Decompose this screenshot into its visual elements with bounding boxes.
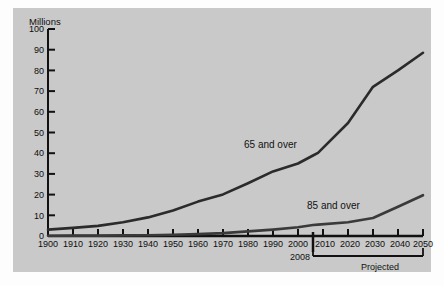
divider-2008-label: 2008 — [290, 252, 310, 262]
y-tick-label-10: 10 — [34, 211, 44, 221]
x-tick-label-1930: 1930 — [113, 239, 133, 249]
x-tick-label-2000: 2000 — [288, 239, 308, 249]
y-tick-label-80: 80 — [34, 66, 44, 76]
series-line-85-and-over — [48, 195, 423, 236]
x-tick-label-1970: 1970 — [213, 239, 233, 249]
projected-bracket — [313, 248, 423, 256]
y-axis-tick-labels: 100 90 80 70 60 50 40 30 20 10 0 — [29, 24, 44, 241]
y-tick-label-50: 50 — [34, 128, 44, 138]
y-tick-label-70: 70 — [34, 86, 44, 96]
y-tick-label-90: 90 — [34, 45, 44, 55]
x-tick-label-1920: 1920 — [88, 239, 108, 249]
series-line-65-and-over — [48, 53, 423, 230]
y-tick-label-100: 100 — [29, 24, 44, 34]
series-label-65-and-over: 65 and over — [244, 139, 297, 150]
x-tick-label-1940: 1940 — [138, 239, 158, 249]
x-tick-label-2010: 2010 — [315, 239, 335, 249]
x-axis-tick-labels: 1900 1910 1920 1930 1940 1950 1960 1970 … — [38, 239, 433, 249]
x-tick-label-1950: 1950 — [163, 239, 183, 249]
line-chart: Millions 100 90 80 70 60 50 40 30 20 — [0, 0, 444, 286]
chart-figure: Millions 100 90 80 70 60 50 40 30 20 — [0, 0, 444, 286]
x-tick-label-2040: 2040 — [390, 239, 410, 249]
y-tick-label-40: 40 — [34, 148, 44, 158]
y-tick-label-30: 30 — [34, 169, 44, 179]
x-tick-label-2050: 2050 — [413, 239, 433, 249]
x-tick-label-1980: 1980 — [238, 239, 258, 249]
projected-label: Projected — [361, 262, 399, 272]
x-tick-label-2030: 2030 — [365, 239, 385, 249]
x-tick-label-1990: 1990 — [263, 239, 283, 249]
y-axis-ticks — [48, 29, 55, 236]
x-tick-label-2020: 2020 — [340, 239, 360, 249]
x-tick-label-1960: 1960 — [188, 239, 208, 249]
y-tick-label-20: 20 — [34, 190, 44, 200]
y-tick-label-60: 60 — [34, 107, 44, 117]
x-tick-label-1900: 1900 — [38, 239, 58, 249]
x-tick-label-1910: 1910 — [63, 239, 83, 249]
series-label-85-and-over: 85 and over — [307, 200, 360, 211]
